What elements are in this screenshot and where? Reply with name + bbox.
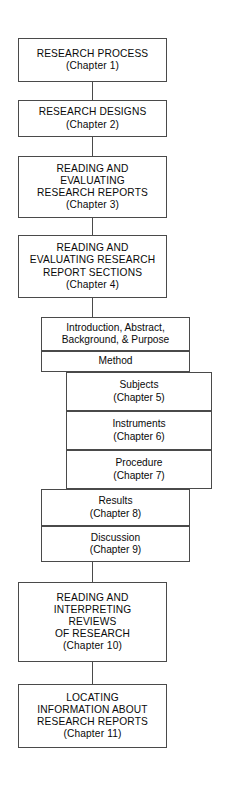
- node-locating-information-about-research-reports: LOCATING INFORMATION ABOUT RESEARCH REPO…: [18, 684, 167, 748]
- node-method-line1: Method: [99, 355, 133, 367]
- node-locating-line1: LOCATING: [66, 692, 119, 704]
- node-reading-evaluating-report-sections-line3: REPORT SECTIONS: [43, 267, 142, 279]
- node-reviews-line5: (Chapter 10): [63, 640, 122, 652]
- node-research-designs-line2: (Chapter 2): [66, 119, 119, 131]
- node-method: Method: [41, 351, 190, 372]
- connector-reports-to-sections: [92, 218, 93, 235]
- node-reading-evaluating-research-reports-line2: EVALUATING: [60, 175, 125, 187]
- node-research-process-line1: RESEARCH PROCESS: [37, 48, 149, 60]
- connector-process-to-designs: [92, 82, 93, 100]
- node-discussion-line2: (Chapter 9): [90, 544, 142, 556]
- node-results-line1: Results: [99, 495, 133, 507]
- node-procedure: Procedure (Chapter 7): [66, 450, 212, 489]
- node-reading-interpreting-reviews-of-research: READING AND INTERPRETING REVIEWS OF RESE…: [18, 582, 167, 662]
- connector-reviews-to-locating: [92, 662, 93, 684]
- node-locating-line3: RESEARCH REPORTS: [37, 716, 148, 728]
- node-subjects: Subjects (Chapter 5): [66, 372, 212, 411]
- node-research-process: RESEARCH PROCESS (Chapter 1): [18, 38, 167, 82]
- research-process-flowchart: RESEARCH PROCESS (Chapter 1) RESEARCH DE…: [0, 0, 230, 791]
- node-reading-evaluating-research-reports-line1: READING AND: [57, 163, 129, 175]
- node-instruments: Instruments (Chapter 6): [66, 411, 212, 450]
- node-reviews-line2: INTERPRETING: [54, 604, 132, 616]
- node-subjects-line2: (Chapter 5): [113, 392, 165, 404]
- node-research-designs-line1: RESEARCH DESIGNS: [39, 106, 147, 118]
- node-reviews-line1: READING AND: [57, 592, 129, 604]
- node-reviews-line3: REVIEWS: [68, 616, 116, 628]
- node-reading-evaluating-report-sections-line1: READING AND: [57, 242, 129, 254]
- node-procedure-line2: (Chapter 7): [113, 470, 165, 482]
- node-research-designs: RESEARCH DESIGNS (Chapter 2): [18, 100, 167, 137]
- node-discussion: Discussion (Chapter 9): [41, 526, 190, 562]
- node-procedure-line1: Procedure: [115, 457, 162, 469]
- connector-sections-to-introduction: [92, 298, 93, 317]
- node-reading-evaluating-research-reports-line4: (Chapter 3): [66, 199, 119, 211]
- node-reading-evaluating-report-sections: READING AND EVALUATING RESEARCH REPORT S…: [18, 235, 167, 298]
- node-locating-line4: (Chapter 11): [63, 728, 121, 740]
- node-research-process-line2: (Chapter 1): [66, 60, 119, 72]
- node-subjects-line1: Subjects: [119, 379, 158, 391]
- node-introduction-line2: Background, & Purpose: [62, 334, 170, 346]
- node-results: Results (Chapter 8): [41, 489, 190, 526]
- node-reviews-line4: OF RESEARCH: [55, 628, 130, 640]
- node-reading-evaluating-research-reports: READING AND EVALUATING RESEARCH REPORTS …: [18, 156, 167, 218]
- node-discussion-line1: Discussion: [91, 532, 140, 544]
- node-results-line2: (Chapter 8): [90, 508, 142, 520]
- node-reading-evaluating-research-reports-line3: RESEARCH REPORTS: [37, 187, 148, 199]
- node-reading-evaluating-report-sections-line2: EVALUATING RESEARCH: [30, 254, 155, 266]
- node-reading-evaluating-report-sections-line4: (Chapter 4): [66, 279, 119, 291]
- node-instruments-line2: (Chapter 6): [113, 431, 165, 443]
- connector-designs-to-reports: [92, 137, 93, 156]
- node-locating-line2: INFORMATION ABOUT: [37, 704, 147, 716]
- connector-discussion-to-reviews: [92, 562, 93, 582]
- node-instruments-line1: Instruments: [112, 418, 165, 430]
- node-introduction-abstract-background-purpose: Introduction, Abstract, Background, & Pu…: [41, 317, 190, 351]
- node-introduction-line1: Introduction, Abstract,: [66, 322, 165, 334]
